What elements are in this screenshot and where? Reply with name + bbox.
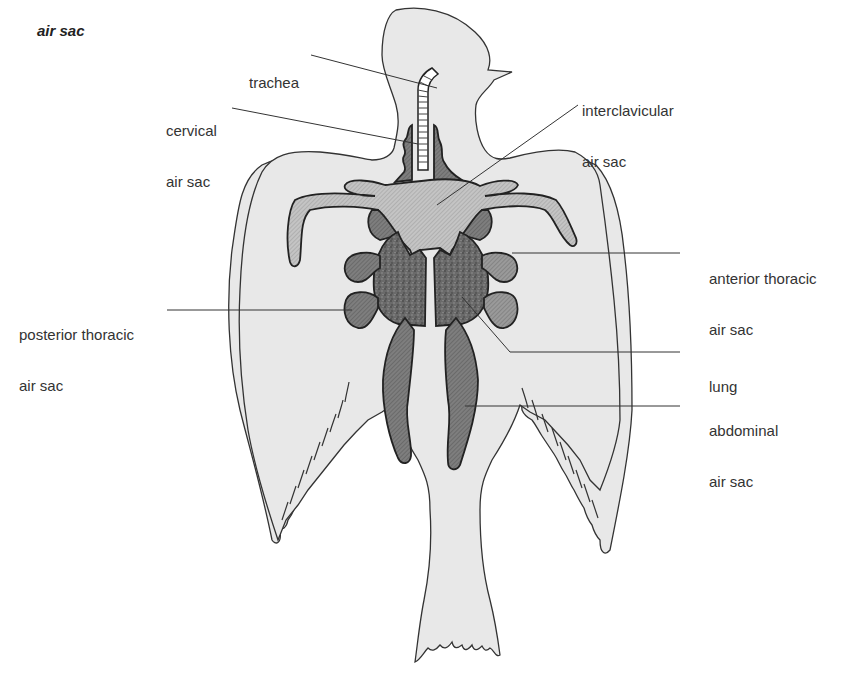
label-posterior-thoracic-line1: posterior thoracic [19, 326, 134, 343]
label-abdominal-line2: air sac [709, 473, 778, 490]
label-trachea: trachea [249, 40, 299, 108]
diagram-title: air sac [37, 22, 85, 39]
label-interclavicular-line2: air sac [582, 153, 674, 170]
label-anterior-thoracic-line1: anterior thoracic [709, 270, 817, 287]
label-anterior-thoracic-line2: air sac [709, 321, 817, 338]
label-abdominal-line1: abdominal [709, 422, 778, 439]
label-posterior-thoracic-air-sac: posterior thoracic air sac [19, 292, 134, 411]
label-cervical-line2: air sac [166, 173, 217, 190]
label-interclavicular-air-sac: interclavicular air sac [582, 68, 674, 187]
label-posterior-thoracic-line2: air sac [19, 377, 134, 394]
label-cervical-line1: cervical [166, 122, 217, 139]
leader-cervical [232, 108, 418, 144]
label-trachea-text: trachea [249, 74, 299, 91]
label-interclavicular-line1: interclavicular [582, 102, 674, 119]
label-abdominal-air-sac: abdominal air sac [709, 388, 778, 507]
label-cervical-air-sac: cervical air sac [166, 88, 217, 207]
label-anterior-thoracic-air-sac: anterior thoracic air sac [709, 236, 817, 355]
